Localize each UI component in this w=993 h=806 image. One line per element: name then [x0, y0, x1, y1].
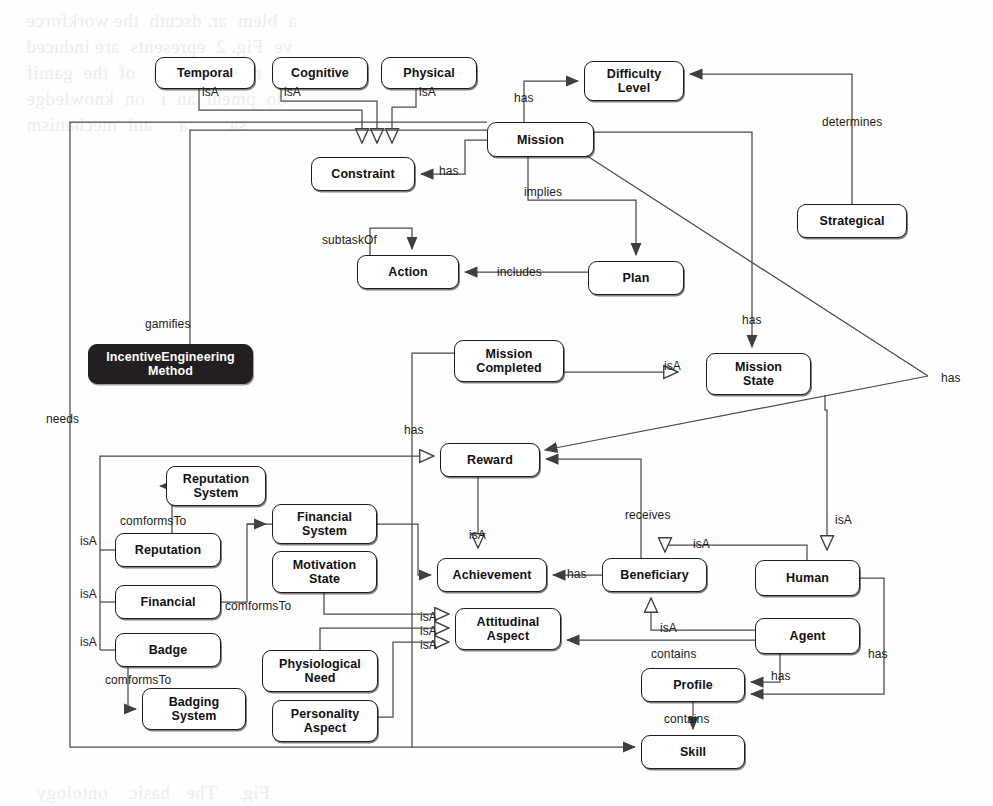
node-label: PersonalityAspect: [291, 707, 360, 735]
edge-mission-implies-plan: [528, 157, 636, 255]
edge-label-l-includes: includes: [497, 266, 542, 278]
node-iem[interactable]: IncentiveEngineeringMethod: [88, 344, 253, 384]
edge-label-l-comf-rep: comformsTo: [120, 515, 186, 527]
edge-label-l-subtaskof: subtaskOf: [322, 234, 377, 246]
node-finsystem[interactable]: FinancialSystem: [272, 504, 377, 544]
edge-label-l-implies: implies: [524, 186, 562, 198]
edge-label-l-isa-financial: isA: [80, 588, 97, 600]
node-label: BadgingSystem: [169, 695, 220, 723]
edge-persaspect-isa-attitudinal: [378, 642, 449, 717]
node-financial[interactable]: Financial: [115, 585, 221, 619]
edge-label-l-needs: needs: [46, 413, 79, 425]
node-reputation[interactable]: Reputation: [115, 533, 221, 567]
edge-label-l-has-reward: has: [404, 424, 424, 436]
node-difficulty[interactable]: DifficultyLevel: [584, 61, 684, 101]
node-label: Temporal: [177, 66, 233, 80]
node-label: Action: [388, 265, 428, 279]
edge-label-l-isa-agent: isA: [660, 622, 677, 634]
edge-label-l-has-profile: has: [771, 670, 791, 682]
edge-label-l-isa-cognitive: isA: [284, 86, 301, 98]
node-label: Cognitive: [291, 66, 349, 80]
edge-label-l-has-right2: has: [868, 648, 888, 660]
node-label: Human: [786, 571, 829, 585]
node-beneficiary[interactable]: Beneficiary: [602, 558, 707, 592]
edge-label-l-isa-badge: isA: [80, 636, 97, 648]
node-missionstate[interactable]: MissionState: [706, 353, 811, 395]
node-label: Physical: [403, 66, 455, 80]
node-label: ReputationSystem: [183, 472, 249, 500]
node-motivstate[interactable]: MotivationState: [272, 551, 377, 593]
edge-label-l-isa-physical: isA: [419, 86, 436, 98]
node-label: DifficultyLevel: [607, 67, 661, 95]
edge-label-l-contains-skill: contains: [664, 713, 710, 725]
edge-label-l-isa-att1: isA: [420, 611, 437, 623]
node-label: Plan: [623, 271, 650, 285]
node-label: Profile: [673, 678, 713, 692]
node-label: PhysiologicalNeed: [279, 657, 361, 685]
node-reward[interactable]: Reward: [440, 443, 540, 477]
edge-label-l-isa-reputation: isA: [80, 535, 97, 547]
edge-label-l-gamifies: gamifies: [145, 318, 190, 330]
node-label: Mission: [517, 133, 564, 147]
node-label: MissionCompleted: [476, 347, 542, 375]
edge-label-l-contains-prof: contains: [651, 648, 697, 660]
node-label: Achievement: [453, 568, 532, 582]
edge-missionstate-isa-human: [825, 395, 827, 550]
edge-label-l-isa-mstate: isA: [664, 360, 681, 372]
node-label: Financial: [140, 595, 195, 609]
node-label: MotivationState: [293, 558, 357, 586]
node-profile[interactable]: Profile: [641, 668, 745, 702]
node-missioncomp[interactable]: MissionCompleted: [454, 340, 564, 382]
edge-label-l-has-difficulty: has: [514, 92, 534, 104]
edge-label-l-isa-att3: isA: [420, 639, 437, 651]
node-badgesystem[interactable]: BadgingSystem: [142, 688, 246, 730]
node-label: Reputation: [135, 543, 201, 557]
node-label: Badge: [149, 643, 188, 657]
edge-label-l-receives: receives: [625, 509, 670, 521]
diagram-canvas: a blem ar. dscuth the workforceve Fig. 2…: [0, 0, 993, 806]
edge-label-l-comf-badge: comformsTo: [105, 674, 171, 686]
edge-financial-comformsto-finsystem: [221, 524, 266, 602]
node-skill[interactable]: Skill: [641, 735, 745, 769]
node-strategical[interactable]: Strategical: [797, 204, 907, 238]
node-label: Strategical: [819, 214, 884, 228]
edge-label-l-has-constraint: has: [439, 165, 459, 177]
node-label: Reward: [467, 453, 513, 467]
edge-label-l-isa-human: isA: [835, 514, 852, 526]
edge-label-l-isa-achieve: isA: [469, 529, 486, 541]
node-plan[interactable]: Plan: [588, 261, 684, 295]
node-label: Agent: [790, 629, 826, 643]
edge-strategical-determines-difficulty: [690, 74, 852, 204]
edge-label-l-isa-temporal: isA: [202, 86, 219, 98]
node-attitudinal[interactable]: AttitudinalAspect: [455, 608, 561, 650]
node-mission[interactable]: Mission: [487, 122, 594, 157]
node-badge[interactable]: Badge: [115, 633, 221, 667]
node-label: FinancialSystem: [297, 510, 352, 538]
edge-label-l-has-right: has: [941, 372, 961, 384]
edge-mission-has-missionstate: [594, 132, 752, 347]
edge-label-l-comf-fin: comformsTo: [225, 600, 291, 612]
node-label: Beneficiary: [620, 568, 689, 582]
edge-label-l-isa-benef: isA: [693, 538, 710, 550]
node-constraint[interactable]: Constraint: [311, 157, 415, 191]
node-achievement[interactable]: Achievement: [437, 558, 547, 592]
node-label: Constraint: [331, 167, 395, 181]
node-physneed[interactable]: PhysiologicalNeed: [262, 650, 378, 692]
node-agent[interactable]: Agent: [755, 618, 860, 654]
node-action[interactable]: Action: [357, 255, 459, 289]
node-repsystem[interactable]: ReputationSystem: [166, 466, 266, 506]
edge-physical-isa-constraint: [392, 89, 416, 143]
node-label: MissionState: [735, 360, 782, 388]
node-label: Skill: [680, 745, 706, 759]
node-persaspect[interactable]: PersonalityAspect: [272, 700, 378, 742]
edge-label-l-has-mstate: has: [742, 314, 762, 326]
edge-label-l-determines: determines: [822, 116, 882, 128]
node-human[interactable]: Human: [755, 560, 860, 596]
edge-label-l-isa-att2: isA: [420, 625, 437, 637]
node-label: AttitudinalAspect: [477, 615, 540, 643]
node-label: IncentiveEngineeringMethod: [106, 350, 234, 378]
edge-label-l-has-achieve: has: [567, 568, 587, 580]
